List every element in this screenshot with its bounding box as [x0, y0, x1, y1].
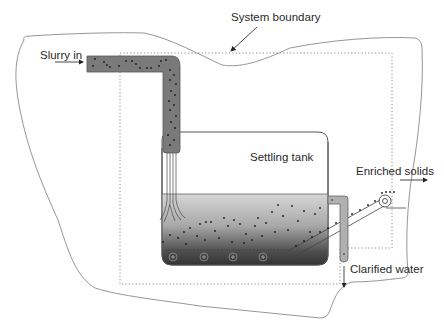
clarified-water-outlet-pipe [328, 196, 348, 262]
clarified-water-label: Clarified water [350, 264, 424, 276]
slurry-inlet-pipe [87, 56, 180, 153]
system-boundary-pointer-arrow [231, 27, 257, 51]
enriched-solids-label: Enriched solids [356, 166, 434, 178]
settling-tank-label: Settling tank [250, 152, 313, 164]
system-boundary-label: System boundary [231, 12, 321, 24]
tank-liquid [162, 194, 328, 265]
slurry-in-label: Slurry in [40, 50, 82, 62]
